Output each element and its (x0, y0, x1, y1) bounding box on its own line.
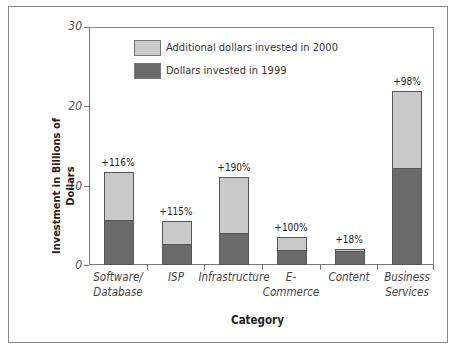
bar-3 (277, 237, 307, 265)
bar-segment-2000 (220, 178, 248, 235)
bar-segment-1999 (163, 244, 191, 264)
bar-segment-2000 (105, 173, 133, 222)
bar-annotation: +116% (93, 157, 143, 168)
y-axis-title-text: Investment in Billions of Dollars (50, 118, 77, 254)
legend-label-1999: Dollars invested in 1999 (166, 64, 286, 77)
bar-1 (162, 221, 192, 265)
bar-segment-1999 (278, 250, 306, 264)
y-tick-20 (84, 106, 89, 107)
bar-annotation: +115% (151, 206, 201, 217)
bar-5 (392, 91, 422, 265)
y-tick-0 (84, 265, 89, 266)
x-axis-title: Category (0, 313, 455, 327)
y-tick-label: 30 (68, 20, 82, 32)
bar-annotation: +100% (266, 222, 316, 233)
bar-annotation: +98% (382, 76, 432, 87)
bar-segment-2000 (393, 92, 421, 170)
bar-4 (335, 249, 365, 265)
bar-segment-1999 (393, 168, 421, 264)
y-axis-title: Investment in Billions of Dollars (50, 106, 78, 266)
bar-annotation: +18% (324, 234, 374, 245)
y-tick-10 (84, 186, 89, 187)
y-tick-30 (84, 27, 89, 28)
bar-segment-1999 (336, 251, 364, 264)
bar-annotation: +190% (209, 162, 259, 173)
legend-swatch-1999 (134, 63, 161, 79)
x-category-label: BusinessServices (367, 270, 447, 300)
bar-2 (219, 177, 249, 265)
bar-segment-2000 (163, 222, 191, 246)
bar-0 (104, 172, 134, 265)
legend-label-2000: Additional dollars invested in 2000 (166, 41, 338, 54)
bar-segment-1999 (105, 220, 133, 264)
legend-swatch-2000 (134, 40, 161, 56)
bar-segment-1999 (220, 233, 248, 264)
